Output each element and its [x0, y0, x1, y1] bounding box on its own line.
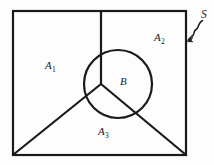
label-region-a2-base: A [154, 31, 161, 43]
label-region-a1-base: A [45, 59, 52, 71]
label-sample-space-s: S [201, 9, 207, 21]
label-region-a2: A2 [154, 32, 164, 43]
venn-partition-figure: A1 A2 A3 B S [0, 0, 214, 165]
label-region-a3: A3 [98, 126, 108, 137]
figure-canvas [0, 0, 214, 165]
label-region-a2-sub: 2 [161, 37, 165, 46]
label-region-a3-base: A [98, 125, 105, 137]
event-b-circle [84, 50, 152, 118]
partition-line-left-diagonal [14, 84, 102, 155]
label-region-a3-sub: 3 [105, 131, 109, 140]
leader-squiggle [189, 21, 203, 40]
partition-line-right-diagonal [101, 84, 186, 155]
label-region-a1-sub: 1 [52, 65, 56, 74]
label-region-a1: A1 [45, 60, 55, 71]
label-event-b: B [120, 76, 127, 87]
